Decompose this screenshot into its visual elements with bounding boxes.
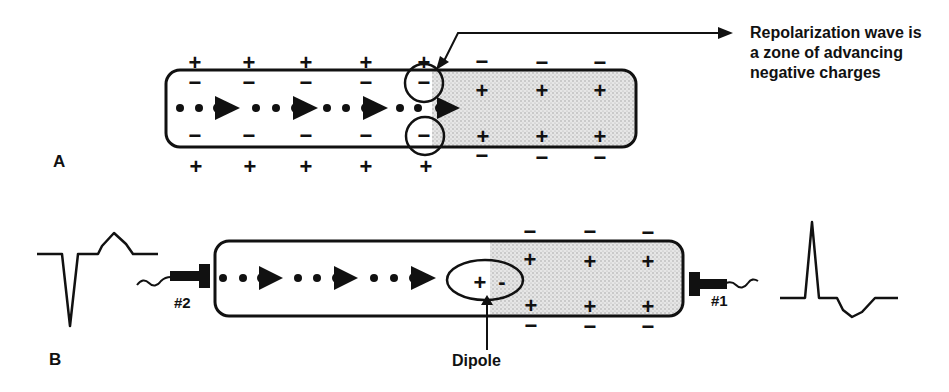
charge-negative: − — [525, 313, 538, 338]
charge-positive: + — [642, 249, 655, 274]
dipole-label: Dipole — [452, 352, 501, 370]
charge-negative: − — [418, 123, 431, 148]
charge-negative: − — [476, 143, 489, 168]
charge-negative: − — [418, 70, 431, 95]
annotation-line-2: a zone of advancing — [750, 43, 922, 63]
charge-negative: − — [642, 220, 655, 245]
charge-positive: + — [594, 78, 607, 103]
charge-positive: + — [524, 247, 537, 272]
annotation-line-1: Repolarization wave is — [750, 23, 922, 43]
charge-negative: − — [189, 123, 202, 148]
charge-negative: − — [360, 70, 373, 95]
dipole-negative-charge: - — [498, 269, 505, 294]
ecg-waveform-left — [37, 233, 158, 326]
repolarization-annotation: Repolarization wave is a zone of advanci… — [750, 23, 922, 83]
charge-negative: − — [300, 70, 313, 95]
charge-negative: − — [476, 49, 489, 74]
charge-negative: − — [243, 123, 256, 148]
charge-positive: + — [584, 249, 597, 274]
charge-positive: + — [476, 78, 489, 103]
charge-positive: + — [536, 78, 549, 103]
charge-negative: − — [524, 219, 537, 244]
annotation-line-3: negative charges — [750, 63, 922, 83]
charge-positive: + — [420, 154, 433, 179]
dipole-pointer-arrow — [481, 295, 493, 350]
panel-b-label: B — [49, 350, 61, 370]
charge-negative: − — [594, 145, 607, 170]
panel-a-label: A — [53, 152, 65, 172]
charge-negative: − — [584, 219, 597, 244]
charge-positive: + — [190, 154, 203, 179]
charge-negative: − — [189, 70, 202, 95]
electrode-2-label: #2 — [174, 294, 191, 311]
charge-positive: + — [360, 154, 373, 179]
charge-negative: − — [594, 50, 607, 75]
panel-b — [37, 222, 898, 350]
charge-positive: + — [244, 154, 257, 179]
electrode-1-label: #1 — [711, 292, 728, 309]
electrode-2 — [137, 264, 210, 288]
dipole-positive-charge: + — [474, 270, 487, 295]
charge-negative: − — [536, 50, 549, 75]
charge-negative: − — [360, 123, 373, 148]
charge-positive: + — [300, 154, 313, 179]
charge-negative: − — [584, 314, 597, 339]
charge-negative: − — [642, 314, 655, 339]
charge-negative: − — [243, 70, 256, 95]
charge-negative: − — [300, 123, 313, 148]
ecg-waveform-right — [780, 222, 898, 317]
charge-negative: − — [536, 145, 549, 170]
panel-b-conduction-arrows — [219, 266, 436, 290]
